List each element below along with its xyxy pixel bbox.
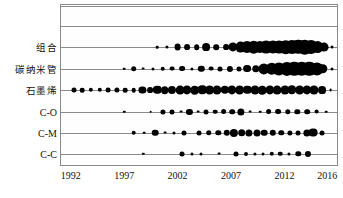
x-tick-label-2012: 2012	[275, 170, 295, 181]
x-tick-label-1992: 1992	[61, 170, 81, 181]
x-tick-label-1997: 1997	[114, 170, 134, 181]
y-axis-label-5: C-C	[40, 148, 57, 159]
y-axis-label-1: 碳纳米管	[15, 62, 57, 76]
x-tick-label-2002: 2002	[168, 170, 188, 181]
y-axis-label-3: C-O	[40, 106, 57, 117]
x-tick-label-2016: 2016	[317, 170, 337, 181]
plot-area-frame	[60, 4, 338, 166]
bubble-timeline-chart: 组合碳纳米管石墨烯C-OC-MC-C 199219972002200720122…	[0, 0, 343, 198]
y-axis-label-4: C-M	[38, 127, 57, 138]
y-axis-label-2: 石墨烯	[26, 83, 58, 97]
y-axis-label-0: 组合	[36, 40, 57, 54]
x-tick-label-2007: 2007	[221, 170, 241, 181]
